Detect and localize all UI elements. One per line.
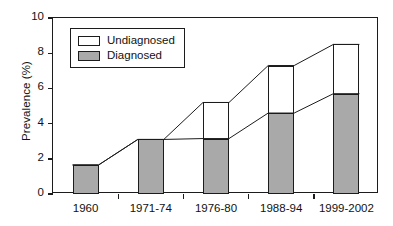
legend-label-undiagnosed: Undiagnosed <box>107 35 175 46</box>
legend-item-diagnosed: Diagnosed <box>78 48 175 63</box>
x-tick-mark <box>118 194 119 199</box>
y-tick-label: 4 <box>4 116 44 128</box>
y-tick-label: 6 <box>4 80 44 92</box>
x-tick-mark <box>313 194 314 199</box>
y-tick-label: 10 <box>4 10 44 22</box>
x-tick-mark <box>248 194 249 199</box>
legend-swatch-undiagnosed-icon <box>78 36 100 46</box>
chart-figure: Prevalence (%) 0246810 19601971-741976-8… <box>0 0 393 226</box>
chart-legend: Undiagnosed Diagnosed <box>70 28 185 68</box>
legend-label-diagnosed: Diagnosed <box>107 50 162 61</box>
legend-swatch-diagnosed-icon <box>78 51 100 61</box>
connector-line-diagnosed <box>73 94 360 165</box>
x-tick-label: 1999-2002 <box>301 202 391 214</box>
plot-area: 0246810 19601971-741976-801988-941999-20… <box>52 17 378 193</box>
y-tick-label: 2 <box>4 151 44 163</box>
y-tick-label: 0 <box>4 186 44 198</box>
x-tick-mark <box>183 194 184 199</box>
legend-item-undiagnosed: Undiagnosed <box>78 33 175 48</box>
y-tick-label: 8 <box>4 45 44 57</box>
